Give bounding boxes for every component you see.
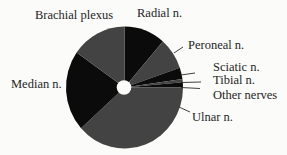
leader-line-sciatic (181, 73, 195, 75)
leader-line-tibial (181, 82, 201, 83)
center-hole (117, 80, 132, 95)
nerve-injury-pie-chart: Brachial plexus Radial n. Peroneal n. Sc… (0, 0, 287, 155)
label-other-nerves: Other nerves (213, 88, 277, 102)
label-peroneal: Peroneal n. (188, 38, 244, 52)
leader-line-peroneal (174, 47, 183, 53)
label-brachial-plexus: Brachial plexus (35, 8, 113, 22)
leader-line-ulnar (179, 107, 190, 112)
leader-line-other (181, 88, 200, 89)
label-ulnar: Ulnar n. (192, 110, 233, 124)
label-median: Median n. (11, 77, 62, 91)
label-sciatic: Sciatic n. (213, 60, 260, 74)
label-tibial: Tibial n. (213, 73, 255, 87)
label-radial: Radial n. (137, 6, 182, 20)
